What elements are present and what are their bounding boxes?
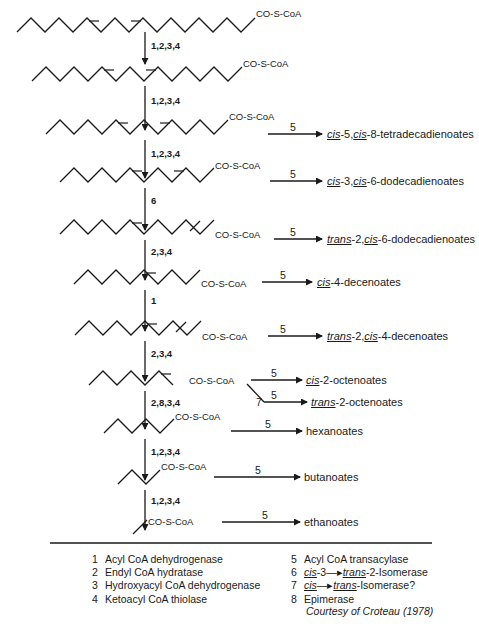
product-name: cis-5,cis-8-tetradecadienoates [327, 128, 474, 140]
transacylase-step-label: 5 [262, 509, 268, 521]
product-name: hexanoates [306, 425, 363, 437]
product-name: cis-3,cis-6-dodecadienoates [327, 175, 464, 187]
enzyme-step-label: 1,2,3,4 [151, 495, 180, 507]
molecule-9 [104, 419, 174, 433]
coa-label: CO-S-CoA [148, 516, 193, 528]
enzyme-step-label: 6 [151, 195, 156, 207]
product-name: cis-2-octenoates [306, 374, 387, 386]
enzyme-step-label: 1,2,3,4 [151, 95, 180, 107]
coa-label: CO-S-CoA [202, 331, 247, 343]
product-name: cis-4-decenoates [317, 276, 401, 288]
molecule-10 [118, 470, 160, 484]
coa-label: CO-S-CoA [256, 8, 301, 20]
enzyme-step-label: 2,3,4 [151, 246, 172, 258]
product-arrows [214, 134, 322, 522]
coa-label: CO-S-CoA [201, 278, 246, 290]
legend-item: 2Endyl CoA hydratase [92, 566, 260, 579]
legend-item: 5Acyl CoA transacylase [291, 553, 428, 566]
coa-label: CO-S-CoA [229, 111, 274, 123]
coa-label: CO-S-CoA [161, 461, 206, 473]
enzyme-step-label: 1,2,3,4 [151, 446, 180, 458]
legend-item: 6cis-3—▸trans-2-Isomerase [291, 566, 428, 579]
pathway-diagram [0, 0, 479, 629]
transacylase-step-label: 5 [280, 269, 286, 281]
coa-label: CO-S-CoA [215, 229, 260, 241]
coa-label: CO-S-CoA [189, 375, 234, 387]
molecule-7 [75, 321, 201, 335]
transacylase-step-label: 5 [271, 367, 277, 379]
figure-credit: Courtesy of Croteau (1978) [306, 605, 433, 617]
legend-left: 1Acyl CoA dehydrogenase 2Endyl CoA hydra… [92, 553, 260, 606]
enzyme-step-label: 2,3,4 [151, 348, 172, 360]
legend-item: 7cis—▸trans-Isomerase? [291, 579, 428, 592]
transacylase-step-label: 5 [290, 121, 296, 133]
coa-label: CO-S-CoA [243, 58, 288, 70]
transacylase-step-label: 5 [271, 389, 277, 401]
transacylase-step-label: 5 [290, 168, 296, 180]
enzyme-step-label: 1,2,3,4 [151, 148, 180, 160]
product-name: butanoates [304, 471, 358, 483]
molecule-3 [46, 120, 228, 134]
molecule-2 [32, 67, 242, 81]
transacylase-step-label: 5 [255, 464, 261, 476]
transacylase-step-label: 5 [265, 418, 271, 430]
molecule-6 [74, 270, 200, 284]
transacylase-step-label: 5 [280, 323, 286, 335]
legend-item: 8Epimerase [291, 593, 428, 606]
enzyme-step-label: 1 [151, 295, 156, 307]
enzyme-step-label: 1,2,3,4 [151, 40, 180, 52]
product-name: trans-2,cis-6-dodecadienoates [327, 233, 475, 245]
molecule-5 [60, 220, 214, 234]
molecule-1 [17, 18, 255, 32]
transacylase-step-label: 5 [290, 226, 296, 238]
isomerase-step-label: 7 [256, 396, 262, 408]
molecule-4 [60, 168, 214, 182]
product-name: trans-2-octenoates [311, 396, 403, 408]
product-name: trans-2,cis-4-decenoates [327, 330, 448, 342]
legend-item: 3Hydroxyacyl CoA dehydrogenase [92, 579, 260, 592]
legend-item: 4Ketoacyl CoA thiolase [92, 593, 260, 606]
enzyme-step-label: 2,8,3,4 [151, 397, 180, 409]
coa-label: CO-S-CoA [175, 411, 220, 423]
product-name: ethanoates [304, 516, 358, 528]
legend-item: 1Acyl CoA dehydrogenase [92, 553, 260, 566]
legend-right: 5Acyl CoA transacylase 6cis-3—▸trans-2-I… [291, 553, 428, 606]
coa-label: CO-S-CoA [215, 160, 260, 172]
